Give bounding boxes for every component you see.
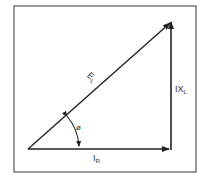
diagram-frame <box>14 6 196 172</box>
resistive-vector-label: IR <box>93 154 100 164</box>
phase-angle-symbol: ø <box>76 123 81 132</box>
reactive-vector-label: IXL <box>175 85 187 95</box>
reactive-label-sub: L <box>184 89 187 95</box>
reactive-label-main: IX <box>175 84 184 94</box>
applied-voltage-vector-line <box>28 23 170 149</box>
resistive-label-sub: R <box>96 158 100 164</box>
phase-angle-label: ø <box>76 124 81 132</box>
phasor-diagram: EL IXL IR ø <box>0 0 207 180</box>
